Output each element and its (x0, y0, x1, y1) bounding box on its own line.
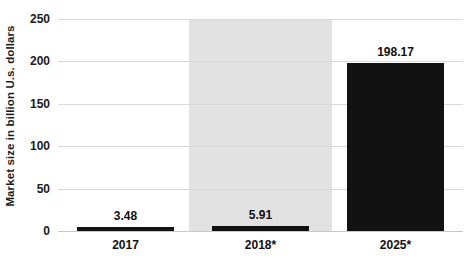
x-axis-label-2017: 2017 (112, 238, 139, 252)
y-axis-tick-0: 0 (43, 224, 50, 238)
x-axis-label-2025: 2025* (380, 238, 411, 252)
y-axis-tick-50: 50 (37, 182, 50, 196)
bar-2025[interactable] (347, 63, 444, 231)
y-axis-title: Market size in billion U.s. dollars (0, 0, 20, 232)
y-axis-title-text: Market size in billion U.s. dollars (4, 25, 16, 206)
x-axis-label-2018: 2018* (245, 238, 276, 252)
axis-baseline (58, 231, 463, 232)
bar-2017[interactable] (77, 227, 174, 231)
bar-value-label-2017: 3.48 (114, 209, 137, 223)
y-axis-tick-200: 200 (30, 54, 50, 68)
x-axis-category-labels: 20172018*2025* (58, 234, 463, 258)
bar-value-label-2025: 198.17 (377, 45, 414, 59)
bar-chart: Market size in billion U.s. dollars 0501… (0, 0, 467, 264)
bar-2018[interactable] (212, 226, 309, 231)
y-axis-tick-150: 150 (30, 97, 50, 111)
y-axis-tick-labels: 050100150200250 (20, 0, 54, 240)
bars: 3.485.91198.17 (58, 19, 463, 231)
plot-area: 3.485.91198.17 (58, 19, 463, 231)
y-axis-tick-250: 250 (30, 12, 50, 26)
bar-value-label-2018: 5.91 (249, 208, 272, 222)
y-axis-tick-100: 100 (30, 139, 50, 153)
